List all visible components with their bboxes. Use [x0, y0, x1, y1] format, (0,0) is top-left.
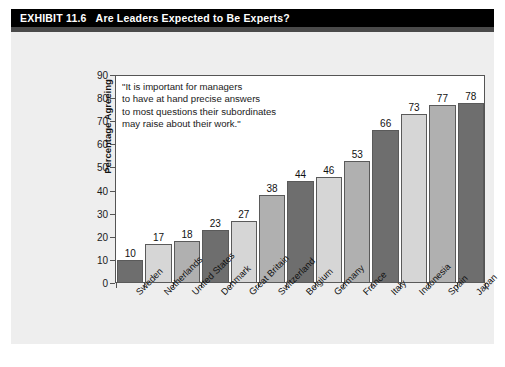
- bar-value-label: 46: [315, 165, 343, 176]
- bar-value-label: 10: [116, 248, 144, 259]
- bar-value-label: 53: [343, 149, 371, 160]
- bar-slot: 53: [343, 75, 371, 283]
- exhibit-title: Are Leaders Expected to Be Experts?: [96, 12, 290, 24]
- bar[interactable]: [401, 114, 427, 283]
- bar-slot: 18: [173, 75, 201, 283]
- bar-slot: 46: [315, 75, 343, 283]
- exhibit-body-panel: Percentage Agreeing 0102030405060708090 …: [11, 32, 494, 344]
- bar[interactable]: [458, 103, 484, 283]
- bar-value-label: 77: [428, 93, 456, 104]
- bar-value-label: 23: [201, 218, 229, 229]
- y-axis-tick-label: 70: [97, 116, 108, 127]
- bar-slot: 77: [428, 75, 456, 283]
- bar-value-label: 38: [258, 183, 286, 194]
- bar-value-label: 66: [371, 118, 399, 129]
- bar-slot: 78: [457, 75, 485, 283]
- x-axis: SwedenNetherlandsUnited StatesDenmarkGre…: [116, 283, 485, 367]
- bar-value-label: 27: [230, 209, 258, 220]
- bar-value-label: 73: [400, 102, 428, 113]
- exhibit-header-text: EXHIBIT 11.6Are Leaders Expected to Be E…: [11, 12, 290, 24]
- bar-slot: 27: [230, 75, 258, 283]
- y-axis-tick-mark: [110, 283, 115, 284]
- chart-container: Percentage Agreeing 0102030405060708090 …: [73, 75, 485, 287]
- y-axis-ticks: 0102030405060708090: [73, 75, 115, 283]
- y-axis-tick-label: 20: [97, 231, 108, 242]
- bar-value-label: 78: [457, 91, 485, 102]
- bar-slot: 23: [201, 75, 229, 283]
- exhibit-number: EXHIBIT 11.6: [20, 12, 87, 24]
- bar-value-label: 44: [286, 169, 314, 180]
- bar[interactable]: [117, 260, 143, 283]
- y-axis-tick-label: 30: [97, 208, 108, 219]
- y-axis-tick-label: 50: [97, 162, 108, 173]
- exhibit-figure: EXHIBIT 11.6Are Leaders Expected to Be E…: [0, 0, 505, 367]
- bar-slot: 44: [286, 75, 314, 283]
- bar-slot: 10: [116, 75, 144, 283]
- bar-value-label: 17: [144, 232, 172, 243]
- bar-slot: 66: [371, 75, 399, 283]
- y-axis-tick-label: 10: [97, 254, 108, 265]
- bar[interactable]: [372, 130, 398, 283]
- bar-series: 10171823273844465366737778: [116, 75, 485, 283]
- bar-slot: 17: [144, 75, 172, 283]
- x-axis-tick-mark: [116, 283, 117, 288]
- y-axis-tick-label: 90: [97, 70, 108, 81]
- bar-slot: 38: [258, 75, 286, 283]
- bar-slot: 73: [400, 75, 428, 283]
- bar-value-label: 18: [173, 229, 201, 240]
- y-axis-tick-label: 60: [97, 139, 108, 150]
- bar[interactable]: [429, 105, 455, 283]
- y-axis-tick-label: 0: [102, 278, 108, 289]
- y-axis-tick-label: 40: [97, 185, 108, 196]
- y-axis-tick-label: 80: [97, 93, 108, 104]
- exhibit-header: EXHIBIT 11.6Are Leaders Expected to Be E…: [11, 9, 494, 27]
